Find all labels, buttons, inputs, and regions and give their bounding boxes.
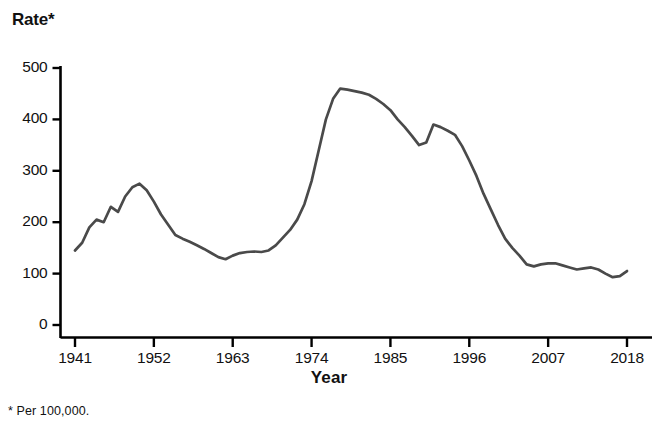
x-axis-tick-label: 1941 (40, 349, 110, 367)
x-axis-tick-label: 1963 (198, 349, 268, 367)
y-axis-tick-label: 0 (0, 315, 48, 333)
y-axis-tick-label: 200 (0, 212, 48, 230)
x-axis-ticks (75, 338, 627, 347)
x-axis-tick-label: 1952 (119, 349, 189, 367)
x-axis-title: Year (0, 368, 658, 388)
y-axis-tick-label: 500 (0, 58, 48, 76)
y-axis-tick-label: 100 (0, 264, 48, 282)
chart-axes (61, 66, 653, 338)
chart-container: Rate* 0100200300400500 19411952196319741… (0, 0, 658, 431)
data-series-line (75, 89, 627, 278)
chart-footnote: * Per 100,000. (8, 404, 89, 418)
x-axis-tick-label: 1985 (355, 349, 425, 367)
x-axis-tick-label: 2007 (513, 349, 583, 367)
x-axis-tick-label: 2018 (592, 349, 658, 367)
x-axis-tick-label: 1996 (434, 349, 504, 367)
x-axis-tick-label: 1974 (277, 349, 347, 367)
y-axis-tick-label: 400 (0, 109, 48, 127)
y-axis-tick-label: 300 (0, 161, 48, 179)
